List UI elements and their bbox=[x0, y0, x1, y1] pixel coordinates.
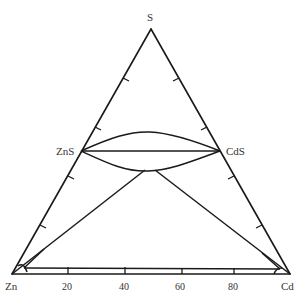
tie-line-to-zn-inner bbox=[24, 249, 44, 268]
tick-right-1 bbox=[173, 78, 179, 81]
compound-label-cds: CdS bbox=[226, 145, 245, 157]
base-tick-label-80: 80 bbox=[228, 281, 238, 292]
compound-label-zns: ZnS bbox=[56, 145, 74, 157]
tick-right-4 bbox=[256, 225, 262, 228]
upper-lens-curve bbox=[81, 132, 220, 151]
base-inner-line bbox=[24, 268, 280, 269]
tie-line-to-cd-inner bbox=[262, 253, 280, 269]
base-tick-label-40: 40 bbox=[119, 281, 129, 292]
tie-line-to-cd bbox=[155, 170, 290, 274]
base-tick-label-60: 60 bbox=[175, 281, 185, 292]
tick-right-3 bbox=[228, 176, 234, 179]
tick-right-2 bbox=[201, 127, 207, 130]
tick-left-2 bbox=[95, 127, 101, 130]
tick-left-3 bbox=[68, 176, 74, 179]
ternary-phase-diagram: S Zn Cd ZnS CdS 20 40 60 80 bbox=[0, 0, 304, 299]
vertex-label-zn: Zn bbox=[5, 280, 18, 292]
corner-tie-lines bbox=[12, 170, 290, 274]
base-axis bbox=[18, 265, 282, 274]
tick-left-4 bbox=[40, 225, 46, 228]
vertex-label-s: S bbox=[147, 11, 153, 23]
right-side-ticks bbox=[173, 78, 262, 228]
base-tick-label-20: 20 bbox=[62, 281, 72, 292]
lower-lens-curve bbox=[81, 151, 220, 171]
tie-line-to-zn bbox=[12, 170, 145, 274]
zns-cds-phase-region bbox=[81, 132, 220, 171]
tick-left-1 bbox=[123, 78, 129, 81]
vertex-label-cd: Cd bbox=[281, 280, 294, 292]
